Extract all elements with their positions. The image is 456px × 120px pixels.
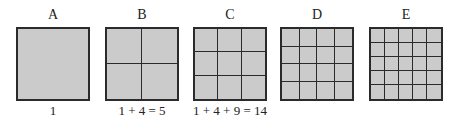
grid-cell [300, 64, 318, 82]
grid-cell [385, 85, 399, 99]
square-grid-1x1 [16, 27, 90, 101]
grid-cell [195, 29, 218, 52]
grid-cell [282, 64, 300, 82]
grid-cell [371, 29, 385, 43]
grid-cell [385, 29, 399, 43]
grid-cell [242, 29, 265, 52]
grid-cell [335, 64, 353, 82]
panel-b: B 1 + 4 = 5 [105, 0, 179, 120]
panel-label: E [369, 7, 443, 23]
grid-cell [413, 71, 427, 85]
grid-cell [413, 85, 427, 99]
grid-cell [317, 47, 335, 65]
grid-cell [300, 82, 318, 100]
grid-cell [242, 52, 265, 75]
grid-cell [371, 85, 385, 99]
grid-cell [107, 29, 142, 64]
grid-cell [195, 76, 218, 99]
grid-cell [399, 43, 413, 57]
panel-label: B [105, 7, 179, 23]
square-grid-3x3 [193, 27, 267, 101]
grid-cell [413, 43, 427, 57]
grid-cell [335, 29, 353, 47]
grid-cell [385, 43, 399, 57]
grid-cell [317, 82, 335, 100]
grid-cell [195, 52, 218, 75]
panel-a: A 1 [16, 0, 90, 120]
grid-cell [317, 29, 335, 47]
square-grid-4x4 [280, 27, 354, 101]
panel-label: A [16, 7, 90, 23]
grid-cell [427, 85, 441, 99]
grid-cell [18, 29, 88, 99]
grid-cell [427, 57, 441, 71]
grid-cell [142, 29, 177, 64]
grid-cell [427, 43, 441, 57]
grid-cell [242, 76, 265, 99]
grid-cell [218, 76, 241, 99]
panel-caption: 1 + 4 + 9 = 14 [173, 103, 287, 118]
grid-cell [142, 64, 177, 99]
panel-label: C [193, 7, 267, 23]
grid-cell [399, 71, 413, 85]
grid-cell [427, 29, 441, 43]
panel-c: C 1 + 4 + 9 = 14 [193, 0, 267, 120]
grid-cell [335, 47, 353, 65]
grid-cell [300, 47, 318, 65]
grid-cell [107, 64, 142, 99]
grid-cell [385, 57, 399, 71]
grid-cell [371, 43, 385, 57]
grid-cell [399, 57, 413, 71]
grid-cell [399, 85, 413, 99]
grid-cell [371, 57, 385, 71]
grid-cell [282, 47, 300, 65]
grid-cell [413, 57, 427, 71]
square-grid-5x5 [369, 27, 443, 101]
panel-label: D [280, 7, 354, 23]
grid-cell [399, 29, 413, 43]
panel-d: D [280, 0, 354, 120]
grid-cell [282, 82, 300, 100]
panel-e: E [369, 0, 443, 120]
grid-cell [218, 29, 241, 52]
square-grid-2x2 [105, 27, 179, 101]
grid-cell [427, 71, 441, 85]
grid-cell [218, 52, 241, 75]
grid-cell [282, 29, 300, 47]
grid-cell [300, 29, 318, 47]
grid-cell [413, 29, 427, 43]
grid-cell [317, 64, 335, 82]
grid-cell [335, 82, 353, 100]
grid-cell [385, 71, 399, 85]
grid-cell [371, 71, 385, 85]
